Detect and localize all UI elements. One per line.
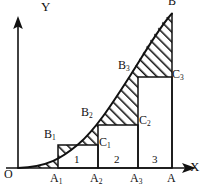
rectangle-number-3: 3 xyxy=(152,154,158,165)
diagram-canvas xyxy=(0,0,203,190)
foot-label-A1-letter: A xyxy=(50,171,59,185)
point-label-B2-subscript: 2 xyxy=(89,111,93,120)
point-label-B1-letter: B xyxy=(44,127,52,141)
point-label-B2: B2 xyxy=(81,106,93,119)
point-label-C2-letter: C xyxy=(139,113,147,127)
foot-label-A2-subscript: 2 xyxy=(99,177,103,186)
point-label-C1: C1 xyxy=(99,136,111,149)
point-label-B3-letter: B xyxy=(118,58,126,72)
origin-label: O xyxy=(4,168,13,180)
point-label-B2-letter: B xyxy=(81,105,89,119)
y-axis-label: Y xyxy=(41,0,50,13)
point-label-C1-letter: C xyxy=(99,135,107,149)
point-label-C1-subscript: 1 xyxy=(107,141,111,150)
riemann-sum-figure: Y X O B B1 B2 B3 C1 C2 C3 A1 A2 A3 A 1 2… xyxy=(0,0,203,190)
foot-label-A1-subscript: 1 xyxy=(59,177,63,186)
rectangle-number-1: 1 xyxy=(74,154,80,165)
foot-label-A3: A3 xyxy=(130,172,142,185)
point-label-B: B xyxy=(168,0,176,7)
point-label-B3-subscript: 3 xyxy=(126,64,130,73)
point-label-C3-letter: C xyxy=(172,67,180,81)
point-label-C2-subscript: 2 xyxy=(147,119,151,128)
foot-label-A3-subscript: 3 xyxy=(139,177,143,186)
foot-label-A3-letter: A xyxy=(130,171,139,185)
foot-label-A2-letter: A xyxy=(90,171,99,185)
rectangle-number-2: 2 xyxy=(114,154,120,165)
point-label-B1: B1 xyxy=(44,128,56,141)
point-label-C2: C2 xyxy=(139,114,151,127)
point-label-B1-subscript: 1 xyxy=(52,133,56,142)
point-label-C3-subscript: 3 xyxy=(180,73,184,82)
x-axis-label: X xyxy=(190,160,199,173)
point-label-C3: C3 xyxy=(172,68,184,81)
point-label-B3: B3 xyxy=(118,59,130,72)
foot-label-A1: A1 xyxy=(50,172,62,185)
foot-label-A2: A2 xyxy=(90,172,102,185)
foot-label-A: A xyxy=(167,172,176,184)
